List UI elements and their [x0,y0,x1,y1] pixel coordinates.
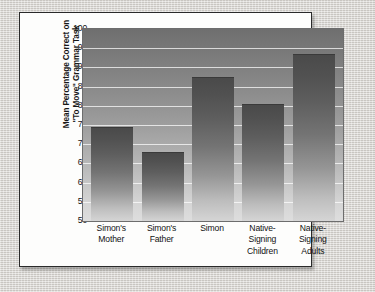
bar-series [83,29,343,221]
x-axis-category-label: Native-SigningAdults [288,223,338,257]
bar [293,54,335,221]
x-axis-category-label: Simon'sFather [136,223,186,257]
x-axis-category-label: Simon [187,223,237,257]
x-axis-category-label-line: Father [136,234,186,245]
bar-slot [289,29,339,221]
bar-slot [87,29,137,221]
bar [242,104,284,221]
x-axis-category-labels: Simon'sMotherSimon'sFatherSimonNative-Si… [82,223,342,257]
x-axis-category-label-line: Signing [237,234,287,245]
x-axis-category-label: Simon'sMother [86,223,136,257]
figure-card: Mean Percentage Correct on "To Move" Gra… [19,12,312,267]
x-axis-category-label-line: Signing [288,234,338,245]
bar [142,152,184,221]
x-axis-category-label-line: Simon [187,223,237,234]
x-axis-category-label: Native-SigningChildren [237,223,287,257]
x-axis-category-label-line: Simon's [136,223,186,234]
x-axis-category-label-line: Adults [288,246,338,257]
x-axis-category-label-line: Children [237,246,287,257]
x-axis-category-label-line: Native- [288,223,338,234]
bar-slot [188,29,238,221]
x-axis-category-label-line: Simon's [86,223,136,234]
plot-area [82,28,344,222]
bar [192,77,234,221]
x-axis-category-label-line: Mother [86,234,136,245]
bar-slot [137,29,187,221]
bar [91,127,133,221]
bar-slot [238,29,288,221]
x-axis-category-label-line: Native- [237,223,287,234]
